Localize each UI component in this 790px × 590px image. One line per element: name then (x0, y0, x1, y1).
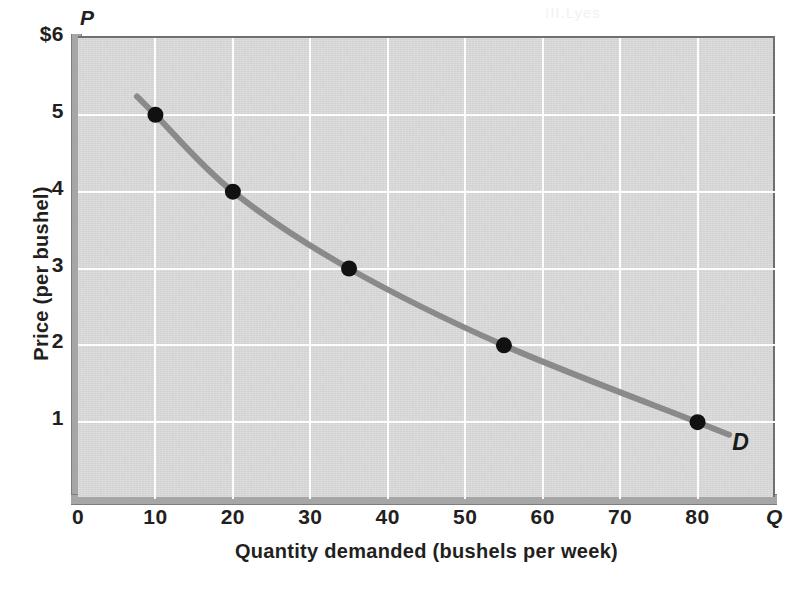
x-tick-label: 20 (203, 505, 263, 529)
y-axis-title: Price (per bushel) (30, 64, 53, 484)
data-point (341, 261, 357, 277)
x-axis-title: Quantity demanded (bushels per week) (78, 540, 775, 563)
data-point (147, 107, 163, 123)
demand-curve-figure: III.Lyes demand the quantity that price … (0, 0, 790, 590)
x-tick-label: 70 (590, 505, 650, 529)
x-tick-label: 30 (280, 505, 340, 529)
price-axis-symbol: P (80, 6, 94, 30)
page-bleed-text: III.Lyes (545, 4, 601, 21)
quantity-axis-symbol: Q (766, 505, 782, 529)
data-point (225, 184, 241, 200)
demand-curve-plot (78, 38, 775, 499)
x-tick-label: 80 (668, 505, 728, 529)
x-tick-label: 0 (48, 505, 108, 529)
demand-curve-line (137, 97, 729, 435)
x-tick-label: 50 (435, 505, 495, 529)
data-point-markers (147, 107, 705, 430)
x-tick-label: 10 (125, 505, 185, 529)
data-point (496, 337, 512, 353)
y-tick-label: $6 (0, 22, 64, 46)
demand-curve-label: D (732, 429, 749, 456)
plot-area: D (78, 36, 775, 497)
x-tick-label: 40 (358, 505, 418, 529)
data-point (690, 414, 706, 430)
x-tick-label: 60 (513, 505, 573, 529)
